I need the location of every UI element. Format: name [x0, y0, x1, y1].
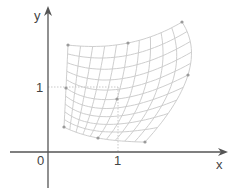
y-axis-label: y [34, 8, 41, 23]
control-point-bottom-left [62, 125, 65, 128]
y-tick-label: 1 [36, 80, 43, 95]
x-axis-label: x [216, 157, 223, 172]
grid-line-horizontal [64, 127, 145, 142]
grid-line-vertical [64, 45, 68, 127]
control-point-bottom-right [143, 140, 146, 143]
control-point-bottom-middle [96, 136, 99, 139]
control-point-middle-left [64, 86, 67, 89]
control-point-top-right [180, 20, 183, 23]
grid-line-horizontal [67, 52, 192, 80]
diagram-canvas: x y 0 1 1 [0, 0, 239, 196]
deformed-grid [64, 22, 192, 142]
control-point-top-left [66, 43, 69, 46]
grid-line-vertical [70, 46, 81, 130]
control-points [62, 20, 189, 143]
grid-line-vertical [145, 22, 192, 142]
control-point-top-middle [126, 41, 129, 44]
grid-line-vertical [90, 45, 116, 136]
origin-label: 0 [37, 153, 44, 168]
x-tick-label: 1 [114, 153, 121, 168]
control-point-center [115, 97, 118, 100]
control-point-middle-right [186, 73, 189, 76]
